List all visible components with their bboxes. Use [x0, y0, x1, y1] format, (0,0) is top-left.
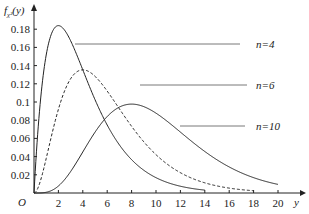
x-tick-label: 16	[224, 197, 236, 209]
y-tick-label: 0.16	[11, 41, 31, 53]
y-tick-label: 0.04	[11, 151, 31, 163]
series-label: n=10	[256, 120, 280, 132]
x-tick-label: 6	[104, 197, 110, 209]
x-tick-label: 14	[199, 197, 211, 209]
x-tick-label: 20	[273, 197, 285, 209]
curve-n-6	[34, 70, 254, 193]
y-axis-label: fχ²(y)	[4, 4, 25, 19]
y-tick-label: 0.08	[11, 114, 31, 126]
y-tick-label: 0.02	[11, 169, 30, 181]
curve-n-10	[34, 104, 278, 193]
x-axis-arrow-icon	[300, 190, 306, 196]
x-tick-label: 12	[175, 197, 186, 209]
chi-square-density-chart: 24681012141618200.020.040.060.080.10.120…	[0, 0, 309, 214]
y-tick-label: 0.12	[11, 78, 30, 90]
origin-label: O	[18, 196, 26, 208]
y-tick-label: 0.1	[16, 96, 30, 108]
y-tick-label: 0.14	[11, 60, 31, 72]
x-tick-label: 8	[129, 197, 135, 209]
density-curves	[34, 26, 278, 193]
x-tick-label: 2	[56, 197, 62, 209]
x-tick-label: 18	[248, 197, 260, 209]
axes: 24681012141618200.020.040.060.080.10.120…	[11, 4, 306, 209]
y-axis-arrow-icon	[31, 4, 37, 11]
x-tick-label: 10	[151, 197, 163, 209]
y-tick-label: 0.06	[11, 132, 31, 144]
y-tick-label: 0.18	[11, 23, 31, 35]
series-label: n=4	[256, 38, 275, 50]
series-label: n=6	[256, 79, 275, 91]
x-tick-label: 4	[80, 197, 86, 209]
x-axis-label: y	[293, 196, 299, 208]
